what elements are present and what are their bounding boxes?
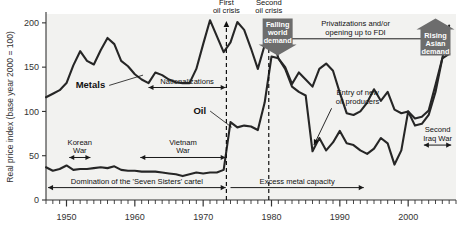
svg-text:Iraq War: Iraq War xyxy=(423,134,452,143)
chart-container: 050100150200195019601970198019902000 Rea… xyxy=(0,0,461,235)
span-annotation-label: Domination of the 'Seven Sisters' cartel xyxy=(71,177,203,186)
callout-label: Entry of newoil producers xyxy=(336,88,380,106)
y-tick-label: 0 xyxy=(34,195,39,205)
x-tick-label: 1970 xyxy=(193,212,213,222)
y-tick-label: 50 xyxy=(29,151,39,161)
svg-text:War: War xyxy=(176,146,190,155)
series-name-text: Oil xyxy=(193,105,206,116)
y-tick-label: 100 xyxy=(24,107,39,117)
span-annotation-label: Nationalizations xyxy=(160,77,214,86)
event-label-line2: oil crisis xyxy=(213,6,240,15)
span-annotation-label: SecondIraq War xyxy=(423,125,452,143)
span-annotation-label: Privatizations and/oropening up to FDI xyxy=(321,19,390,37)
y-axis-title: Real price index (base year 2000 = 100) xyxy=(5,31,15,183)
x-tick-label: 2000 xyxy=(398,212,418,222)
svg-text:Entry of new: Entry of new xyxy=(336,88,379,97)
svg-text:opening up to FDI: opening up to FDI xyxy=(325,28,385,37)
badge-label-line: demand xyxy=(422,47,450,56)
svg-text:War: War xyxy=(73,146,87,155)
y-tick-label: 200 xyxy=(24,18,39,28)
y-axis-title-group: Real price index (base year 2000 = 100) xyxy=(5,31,15,183)
svg-text:Excess metal capacity: Excess metal capacity xyxy=(260,177,335,186)
x-tick-label: 1990 xyxy=(330,212,350,222)
svg-text:oil producers: oil producers xyxy=(336,97,380,106)
svg-text:Nationalizations: Nationalizations xyxy=(160,77,214,86)
x-tick-label: 1960 xyxy=(125,212,145,222)
x-tick-label: 1980 xyxy=(261,212,281,222)
badge-label-line: demand xyxy=(264,36,292,45)
y-tick-label: 150 xyxy=(24,62,39,72)
x-tick-label: 1950 xyxy=(56,212,76,222)
price-index-chart: 050100150200195019601970198019902000 Rea… xyxy=(0,0,461,235)
event-label-line2: oil crisis xyxy=(255,6,282,15)
span-annotation-label: Excess metal capacity xyxy=(260,177,335,186)
svg-text:Domination of the 'Seven Siste: Domination of the 'Seven Sisters' cartel xyxy=(71,177,203,186)
series-name-text: Metals xyxy=(76,79,106,90)
